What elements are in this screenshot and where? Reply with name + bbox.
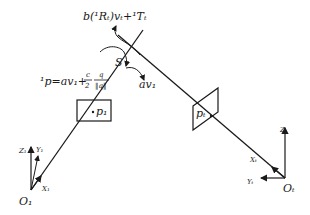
label-S: S (115, 56, 123, 69)
ray-from-o1 (31, 30, 143, 190)
label-Xt: Xₜ (249, 156, 257, 164)
label-pt: pₜ (196, 107, 206, 120)
xt-axis (272, 167, 285, 178)
label-p1: p₁ (96, 105, 107, 118)
diagram-canvas: b(¹Rₜ)vₜ+¹Tₜ ¹p=av₁+ c 2 q ‖q‖ S av₁ p₁ … (0, 0, 310, 215)
label-Ot: Oₜ (283, 182, 295, 195)
label-frac-normq: ‖q‖ (95, 82, 106, 90)
label-frac-2: 2 (84, 82, 90, 90)
label-Y1: Y₁ (36, 146, 44, 154)
label-top-formula: b(¹Rₜ)vₜ+¹Tₜ (83, 10, 147, 23)
label-X1: X₁ (41, 185, 50, 193)
label-av1: av₁ (139, 78, 156, 91)
label-frac-c: c (86, 71, 90, 79)
curve-arrow-s (100, 47, 127, 66)
label-O1: O₁ (19, 195, 32, 208)
label-Z1: Z₁ (18, 147, 27, 155)
label-frac-q: q (99, 71, 104, 79)
diagram-svg: b(¹Rₜ)vₜ+¹Tₜ ¹p=av₁+ c 2 q ‖q‖ S av₁ p₁ … (0, 0, 310, 215)
label-point-formula: ¹p=av₁+ (40, 75, 87, 88)
label-Yt: Yₜ (247, 178, 254, 186)
label-Zt: Zₜ (279, 126, 287, 134)
